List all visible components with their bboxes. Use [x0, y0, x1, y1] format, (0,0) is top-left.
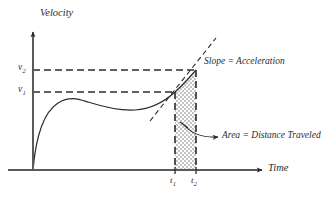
velocity-curve	[33, 70, 196, 170]
area-annotation: Area = Distance Traveled	[222, 131, 321, 141]
velocity-time-figure: Velocity Time v2 v1 t1 t2 Slope = Accele…	[0, 0, 335, 198]
y-tick-v1-subscript: 1	[23, 89, 26, 96]
x-tick-t2-subscript: 2	[194, 180, 197, 187]
x-tick-label-t2: t2	[191, 176, 197, 185]
y-axis-label: Velocity	[40, 8, 73, 19]
y-tick-label-v1: v1	[18, 85, 25, 95]
y-tick-v1-base: v	[18, 84, 22, 94]
x-tick-t1-subscript: 1	[173, 180, 176, 187]
y-tick-v2-base: v	[18, 62, 22, 72]
x-axis-label: Time	[268, 163, 288, 174]
y-tick-v2-subscript: 2	[23, 67, 26, 74]
slope-annotation: Slope = Acceleration	[204, 57, 285, 67]
y-tick-label-v2: v2	[18, 63, 25, 73]
x-tick-label-t1: t1	[170, 176, 176, 185]
